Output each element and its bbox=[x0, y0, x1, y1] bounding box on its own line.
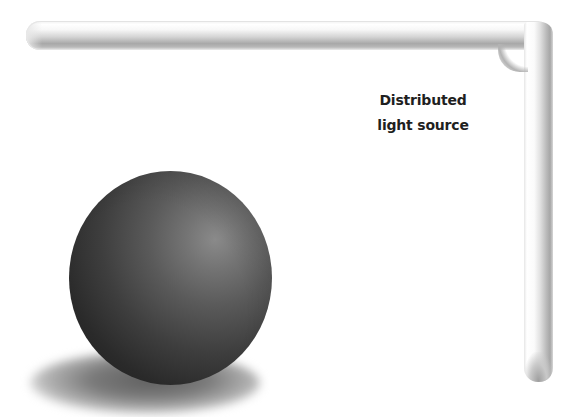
light-tube-left-cap bbox=[26, 21, 42, 50]
label-line-2: light source bbox=[352, 113, 494, 138]
sphere-rim-shading bbox=[69, 171, 272, 385]
light-tube-horizontal bbox=[26, 21, 548, 50]
light-tube-inner-corner bbox=[498, 44, 528, 72]
light-tube-bottom-cap bbox=[524, 352, 553, 382]
label-line-1: Distributed bbox=[352, 88, 494, 113]
diagram-canvas: Distributed light source bbox=[0, 0, 575, 417]
light-tube-vertical bbox=[524, 22, 553, 382]
light-source-label: Distributed light source bbox=[352, 88, 494, 138]
